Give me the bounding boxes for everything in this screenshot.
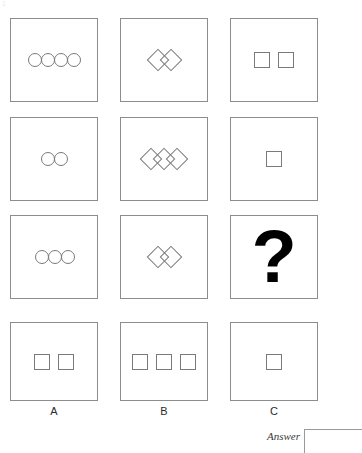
matrix-cell-content [11, 19, 97, 101]
circle-icon [41, 152, 55, 166]
matrix-cell-content [121, 118, 207, 200]
square-group-1 [266, 151, 282, 167]
matrix-cell-content [231, 118, 317, 200]
matrix-cell-r3c2 [120, 215, 208, 299]
circle-icon [61, 250, 75, 264]
matrix-cell-r1c1 [10, 18, 98, 102]
diamond-icon [159, 49, 182, 72]
matrix-cell-content [121, 19, 207, 101]
square-group-1 [266, 354, 282, 370]
answer-area: Answer [0, 424, 362, 449]
matrix-grid: ? [0, 0, 362, 410]
matrix-cell-content [121, 216, 207, 298]
diamond-group-2 [151, 249, 177, 265]
option-panel-content [11, 323, 97, 400]
matrix-cell-content [231, 19, 317, 101]
square-icon [34, 354, 50, 370]
option-label-c: C [230, 405, 318, 417]
circle-icon [48, 250, 62, 264]
square-group-2 [34, 354, 74, 370]
diamond-group-2 [151, 52, 177, 68]
answer-label: Answer [267, 430, 300, 442]
matrix-cell-r2c1 [10, 117, 98, 201]
circle-icon [67, 53, 81, 67]
square-icon [156, 354, 172, 370]
square-icon [132, 354, 148, 370]
circle-icon [28, 53, 42, 67]
option-label-a: A [10, 405, 98, 417]
question-mark-glyph: ? [251, 227, 296, 288]
square-icon [254, 52, 270, 68]
square-icon [266, 151, 282, 167]
square-group-2 [254, 52, 294, 68]
circle-group-4 [28, 53, 80, 67]
matrix-cell-r1c3 [230, 18, 318, 102]
option-panel-content [121, 323, 207, 400]
circle-group-2 [41, 152, 67, 166]
option-panel-c[interactable] [230, 322, 318, 401]
matrix-cell-r3c3-missing: ? [230, 215, 318, 299]
matrix-cell-content [11, 118, 97, 200]
option-panel-b[interactable] [120, 322, 208, 401]
square-icon [58, 354, 74, 370]
square-icon [278, 52, 294, 68]
option-panel-a[interactable] [10, 322, 98, 401]
matrix-cell-content [11, 216, 97, 298]
matrix-cell-r3c1 [10, 215, 98, 299]
circle-icon [54, 152, 68, 166]
circle-group-3 [35, 250, 74, 264]
square-group-3 [132, 354, 196, 370]
matrix-cell-r2c2 [120, 117, 208, 201]
answer-input[interactable] [304, 429, 362, 453]
diamond-icon [166, 148, 189, 171]
matrix-cell-content: ? [231, 216, 317, 298]
circle-icon [54, 53, 68, 67]
diamond-icon [159, 246, 182, 269]
circle-icon [35, 250, 49, 264]
option-label-b: B [120, 405, 208, 417]
matrix-cell-r1c2 [120, 18, 208, 102]
square-icon [180, 354, 196, 370]
circle-icon [41, 53, 55, 67]
square-icon [266, 354, 282, 370]
matrix-cell-r2c3 [230, 117, 318, 201]
diamond-group-3 [145, 151, 184, 167]
option-panel-content [231, 323, 317, 400]
